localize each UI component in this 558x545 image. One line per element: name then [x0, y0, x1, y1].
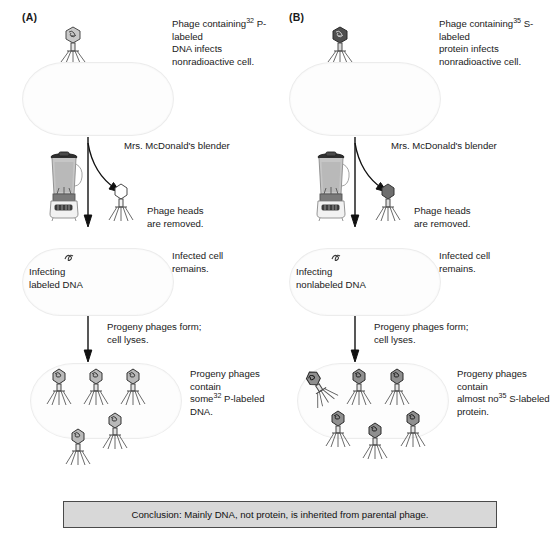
panel-b-heads-removed-text: Phage heads are removed. — [414, 205, 471, 230]
conclusion-text: Conclusion: Mainly DNA, not protein, is … — [131, 509, 428, 520]
panel-a-heads-removed-text: Phage heads are removed. — [147, 205, 204, 230]
progeny-phage — [381, 366, 413, 412]
panel-b-infected-cell-text: Infected cell remains. — [439, 250, 490, 275]
removed-phage-head-icon — [371, 180, 405, 228]
host-cell-top — [289, 62, 441, 136]
panel-a-label: (A) — [22, 11, 37, 23]
removed-phage-head-icon — [104, 180, 138, 228]
progeny-phage — [322, 408, 354, 454]
panel-b-cell-contents-text: Infecting nonlabeled DNA — [296, 266, 366, 291]
host-cell-top — [22, 62, 174, 136]
panel-a-infected-cell-text: Infected cell remains. — [172, 250, 223, 275]
progeny-phage — [359, 420, 391, 466]
panel-b-label: (B) — [289, 11, 304, 23]
panel-b-infection-text: Phage containing35 S-labeled protein inf… — [439, 18, 558, 68]
conclusion-box: Conclusion: Mainly DNA, not protein, is … — [63, 501, 497, 528]
panel-b-blender-text: Mrs. McDonald's blender — [391, 140, 497, 153]
progeny-phage — [62, 426, 94, 472]
panel-b-progeny-text: Progeny phages contain almost no35 S-lab… — [457, 368, 558, 418]
progeny-phage — [99, 410, 131, 456]
progeny-phage — [117, 366, 149, 412]
blender-icon — [37, 150, 91, 226]
progeny-phage — [43, 366, 75, 412]
panel-b-lysis-text: Progeny phages form; cell lyses. — [374, 321, 468, 346]
progeny-phage — [80, 366, 112, 412]
blender-icon — [304, 150, 358, 226]
panel-a-infection-text: Phage containing32 P-labeled DNA infects… — [172, 18, 279, 68]
panel-b: (B) Phage containing35 S-labeled protein… — [279, 0, 558, 490]
panel-a-cell-contents-text: Infecting labeled DNA — [29, 266, 83, 291]
panel-a-lysis-text: Progeny phages form; cell lyses. — [107, 321, 201, 346]
down-arrow-icon-2 — [347, 316, 367, 368]
down-arrow-icon-2 — [80, 316, 100, 368]
progeny-phage — [343, 366, 375, 412]
panel-a-progeny-text: Progeny phages contain some32 P-labeled … — [190, 368, 279, 418]
figure-caption-clipped — [6, 538, 552, 545]
panel-a-blender-text: Mrs. McDonald's blender — [124, 140, 230, 153]
progeny-phage — [397, 408, 429, 454]
panel-a: (A) Phage containing32 P-labeled DNA inf… — [0, 0, 279, 490]
